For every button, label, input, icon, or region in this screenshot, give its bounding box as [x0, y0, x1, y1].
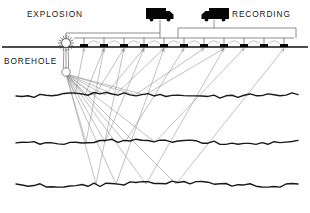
raypath-layer	[66, 49, 284, 185]
truck-wheel-rear	[222, 18, 226, 22]
reflector-1	[16, 92, 298, 98]
raypath	[66, 49, 164, 96]
truck-body	[202, 8, 230, 19]
explosion-label: EXPLOSION	[27, 9, 83, 19]
geophone[interactable]	[100, 44, 108, 47]
recording-truck[interactable]	[202, 8, 230, 22]
ray-downgoing	[66, 74, 125, 142]
ray-upgoing	[85, 49, 104, 96]
reflector-3	[16, 181, 298, 187]
burst-spike	[60, 37, 63, 40]
explosive-charge	[62, 68, 70, 76]
geophone-cable-arc	[166, 41, 182, 47]
geophone[interactable]	[220, 44, 228, 47]
seismic-survey-canvas: EXPLOSION RECORDING BOREHOLE	[0, 0, 310, 213]
geophone[interactable]	[80, 44, 88, 47]
geophone-cable-arc	[206, 41, 222, 47]
burst-spike	[70, 40, 73, 41]
seismic-survey-diagram: EXPLOSION RECORDING BOREHOLE	[0, 0, 310, 213]
geophone-cable-arc	[106, 41, 122, 47]
truck-wheel-front	[167, 18, 171, 22]
raypath	[66, 49, 224, 185]
geophone-cable-arc	[266, 41, 282, 47]
truck-shape	[146, 8, 174, 22]
burst-spike	[68, 36, 69, 39]
vehicle-layer	[146, 8, 229, 33]
raypath	[66, 49, 144, 96]
borehole-label: BOREHOLE	[4, 56, 57, 66]
ray-downgoing	[66, 74, 155, 142]
burst-core	[62, 39, 71, 48]
raypath	[66, 49, 204, 96]
burst-spike	[70, 45, 73, 46]
geophone[interactable]	[200, 44, 208, 47]
geophone[interactable]	[180, 44, 188, 47]
geophone[interactable]	[280, 44, 288, 47]
geophone[interactable]	[240, 44, 248, 47]
explosion-cable-trunk	[66, 33, 160, 45]
burst-spike	[69, 37, 72, 40]
explosion-burst-icon	[58, 35, 74, 51]
burst-spike	[63, 36, 64, 39]
ray-downgoing	[66, 74, 146, 184]
ray-arrowhead	[181, 49, 184, 53]
truck-shape	[202, 8, 230, 22]
raypath	[66, 49, 284, 185]
geophone-cable-layer	[66, 28, 296, 47]
explosion-truck[interactable]	[146, 8, 174, 22]
burst-spike	[59, 40, 62, 41]
geophone[interactable]	[120, 44, 128, 47]
geophone-cable-arc	[186, 41, 202, 47]
geophone-cable-arc	[246, 41, 262, 47]
raypath	[66, 49, 164, 185]
geophone[interactable]	[140, 44, 148, 47]
truck-wheel-rear	[150, 18, 154, 22]
geophone-cable-arc	[126, 41, 142, 47]
ray-upgoing	[116, 49, 164, 185]
geophone[interactable]	[260, 44, 268, 47]
geophone-cable-arc	[146, 41, 162, 47]
geophone-cable-arc	[86, 41, 102, 47]
raypath	[66, 49, 124, 96]
recording-label: RECORDING	[232, 9, 291, 19]
recording-cable-trunk	[178, 28, 296, 38]
geophone-cable-arc	[226, 41, 242, 47]
ray-upgoing	[146, 49, 224, 185]
raypath	[66, 49, 184, 143]
truck-body	[146, 8, 174, 19]
ray-upgoing	[176, 49, 284, 185]
geophone[interactable]	[160, 44, 168, 47]
ray-upgoing	[105, 49, 144, 96]
borehole-assembly	[58, 35, 74, 76]
burst-spike	[59, 45, 62, 46]
truck-wheel-front	[205, 18, 209, 22]
